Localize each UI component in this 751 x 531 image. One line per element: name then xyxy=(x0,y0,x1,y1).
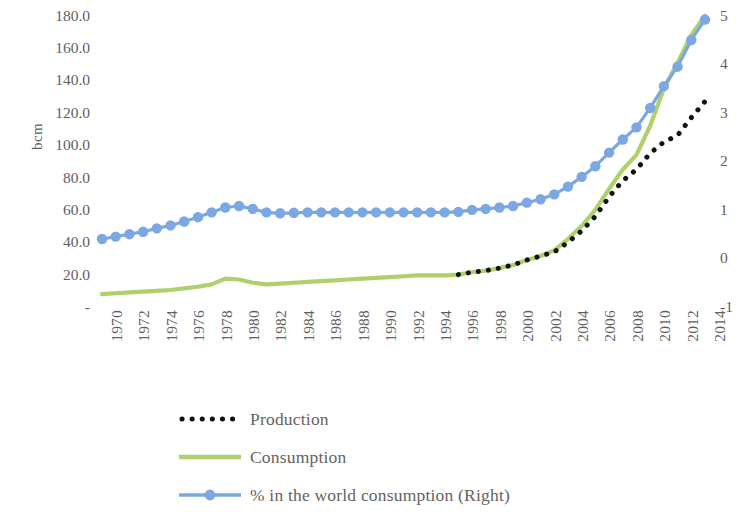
series-line xyxy=(102,16,705,294)
data-point-marker xyxy=(316,207,326,217)
y-tick-label: - xyxy=(85,298,90,316)
data-point-marker xyxy=(385,207,395,217)
data-point-marker xyxy=(371,207,381,217)
data-point-marker xyxy=(604,147,614,157)
y-tick-label: 160.0 xyxy=(55,39,90,57)
legend-item[interactable]: Production xyxy=(176,400,696,438)
series-consumption xyxy=(102,16,705,294)
series-production xyxy=(458,101,705,274)
legend-label: Production xyxy=(250,409,329,430)
data-point-marker xyxy=(549,189,559,199)
x-tick-label: 2006 xyxy=(601,310,619,342)
y2-tick-label: 5 xyxy=(720,7,728,25)
data-point-marker xyxy=(618,134,628,144)
data-point-marker xyxy=(302,207,312,217)
data-point-marker xyxy=(439,207,449,217)
x-tick-label: 1998 xyxy=(492,310,510,342)
data-point-marker xyxy=(481,204,491,214)
data-point-marker xyxy=(124,229,134,239)
legend-swatch-dotted-black-icon xyxy=(176,410,244,428)
data-point-marker xyxy=(535,194,545,204)
legend-item[interactable]: % in the world consumption (Right) xyxy=(176,476,696,514)
x-tick-label: 2008 xyxy=(629,310,647,342)
x-tick-label: 1988 xyxy=(355,310,373,342)
series-line xyxy=(102,20,705,239)
x-tick-label: 1980 xyxy=(245,310,263,342)
x-tick-label: 1978 xyxy=(218,310,236,342)
data-point-marker xyxy=(261,207,271,217)
x-tick-label: 2010 xyxy=(656,310,674,342)
data-point-marker xyxy=(330,207,340,217)
data-point-marker xyxy=(289,208,299,218)
data-point-marker xyxy=(590,161,600,171)
data-point-marker xyxy=(152,223,162,233)
x-tick-label: 1994 xyxy=(437,310,455,342)
data-point-marker xyxy=(453,207,463,217)
data-point-marker xyxy=(357,207,367,217)
y-axis-right: 543210-1 xyxy=(718,0,751,313)
data-point-marker xyxy=(275,208,285,218)
y-tick-label: 120.0 xyxy=(55,104,90,122)
data-point-marker xyxy=(412,207,422,217)
y2-tick-label: 0 xyxy=(720,249,728,267)
x-tick-label: 2004 xyxy=(574,310,592,342)
x-tick-label: 1982 xyxy=(272,310,290,342)
x-tick-label: 1974 xyxy=(163,310,181,342)
data-point-marker xyxy=(179,216,189,226)
data-point-marker xyxy=(343,207,353,217)
x-tick-label: 1984 xyxy=(300,310,318,342)
y-tick-label: 20.0 xyxy=(63,266,90,284)
legend-swatch-marker-blue-icon xyxy=(176,486,244,504)
y-tick-label: 80.0 xyxy=(63,169,90,187)
y-tick-label: 140.0 xyxy=(55,71,90,89)
data-point-marker xyxy=(138,227,148,237)
data-point-marker xyxy=(248,204,258,214)
data-point-marker xyxy=(659,81,669,91)
data-point-marker xyxy=(522,197,532,207)
x-tick-label: 1976 xyxy=(190,310,208,342)
data-point-marker xyxy=(563,181,573,191)
x-tick-label: 2002 xyxy=(547,310,565,342)
data-point-marker xyxy=(426,207,436,217)
x-axis: 1970197219741976197819801982198419861988… xyxy=(95,310,712,390)
data-point-marker xyxy=(631,122,641,132)
data-point-marker xyxy=(220,202,230,212)
y2-tick-label: 4 xyxy=(720,55,728,73)
x-tick-label: 1972 xyxy=(135,310,153,342)
data-point-marker xyxy=(672,61,682,71)
legend-swatch-solid-green-icon xyxy=(176,448,244,466)
x-tick-label: 2000 xyxy=(519,310,537,342)
chart-container: bcm 180.0160.0140.0120.0100.080.060.040.… xyxy=(0,0,751,531)
plot-svg xyxy=(95,6,712,307)
data-point-marker xyxy=(686,35,696,45)
legend-label: % in the world consumption (Right) xyxy=(250,485,510,506)
y-tick-label: 180.0 xyxy=(55,7,90,25)
data-point-marker xyxy=(111,231,121,241)
y-axis-left: 180.0160.0140.0120.0100.080.060.040.020.… xyxy=(26,0,94,313)
legend-label: Consumption xyxy=(250,447,347,468)
x-tick-label: 1992 xyxy=(410,310,428,342)
y-tick-label: 60.0 xyxy=(63,201,90,219)
data-point-marker xyxy=(467,205,477,215)
x-tick-label: 2014 xyxy=(711,310,729,342)
legend-item[interactable]: Consumption xyxy=(176,438,696,476)
data-point-marker xyxy=(193,212,203,222)
x-tick-label: 2012 xyxy=(684,310,702,342)
plot-area xyxy=(95,6,712,307)
data-point-marker xyxy=(645,103,655,113)
data-point-marker xyxy=(398,207,408,217)
x-tick-label: 1986 xyxy=(327,310,345,342)
data-point-marker xyxy=(206,207,216,217)
chart-legend: ProductionConsumption% in the world cons… xyxy=(176,400,696,514)
data-point-marker xyxy=(97,234,107,244)
data-point-marker xyxy=(165,220,175,230)
y2-tick-label: 1 xyxy=(720,201,728,219)
x-tick-label: 1996 xyxy=(464,310,482,342)
data-point-marker xyxy=(494,202,504,212)
series-line xyxy=(458,101,705,274)
data-point-marker xyxy=(234,201,244,211)
y2-tick-label: 2 xyxy=(720,152,728,170)
x-tick-label: 1970 xyxy=(108,310,126,342)
series-world-share xyxy=(97,14,710,244)
data-point-marker xyxy=(576,172,586,182)
